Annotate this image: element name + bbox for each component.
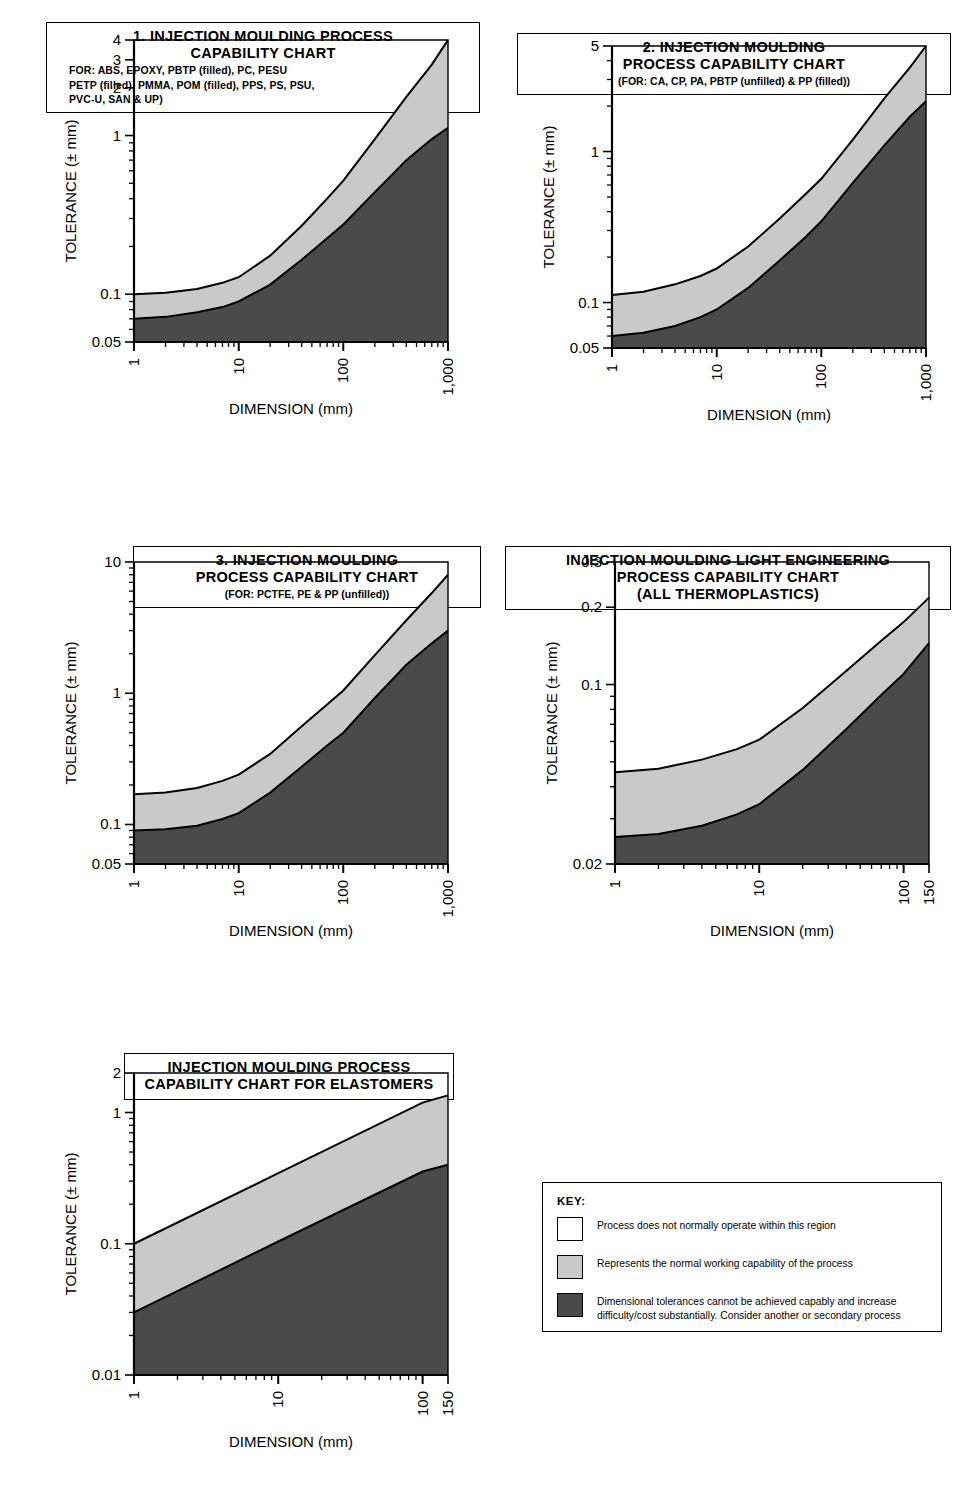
svg-text:0.1: 0.1 <box>578 294 599 311</box>
svg-text:DIMENSION (mm): DIMENSION (mm) <box>229 922 353 939</box>
svg-text:10: 10 <box>708 364 725 381</box>
svg-text:1,000: 1,000 <box>439 880 456 918</box>
svg-text:DIMENSION (mm): DIMENSION (mm) <box>707 406 831 423</box>
svg-text:2: 2 <box>113 79 121 96</box>
chart-panel-2: 2. INJECTION MOULDING PROCESS CAPABILITY… <box>517 33 951 95</box>
svg-text:0.1: 0.1 <box>581 676 602 693</box>
chart-panel-1: 1. INJECTION MOULDING PROCESS CAPABILITY… <box>46 22 480 113</box>
svg-text:4: 4 <box>113 31 121 48</box>
svg-text:TOLERANCE (± mm): TOLERANCE (± mm) <box>543 642 560 785</box>
svg-text:100: 100 <box>334 358 351 383</box>
svg-text:1,000: 1,000 <box>439 358 456 396</box>
key-item-light-gray: Represents the normal working capability… <box>557 1255 927 1279</box>
key-legend-box: KEY: Process does not normally operate w… <box>542 1182 942 1332</box>
key-swatch-white <box>557 1217 583 1241</box>
chart-4-svg: 0.020.10.20.3110100150TOLERANCE (± mm)DI… <box>497 552 962 942</box>
svg-text:0.1: 0.1 <box>100 285 121 302</box>
svg-text:1,000: 1,000 <box>917 364 934 402</box>
svg-text:2: 2 <box>113 1064 121 1081</box>
chart-3-svg: 0.050.11101101001,000TOLERANCE (± mm)DIM… <box>16 552 486 942</box>
chart-5-plot: 0.010.112110100150TOLERANCE (± mm)DIMENS… <box>16 1063 486 1453</box>
chart-1-plot: 0.050.112341101001,000TOLERANCE (± mm)DI… <box>16 30 486 420</box>
svg-text:100: 100 <box>895 880 912 905</box>
svg-text:10: 10 <box>269 1391 286 1408</box>
chart-5-svg: 0.010.112110100150TOLERANCE (± mm)DIMENS… <box>16 1063 486 1453</box>
svg-text:0.02: 0.02 <box>573 855 602 872</box>
chart-2-svg: 0.050.1151101001,000TOLERANCE (± mm)DIME… <box>494 36 962 426</box>
key-item-dark-gray: Dimensional tolerances cannot be achieve… <box>557 1293 927 1322</box>
chart-2-plot: 0.050.1151101001,000TOLERANCE (± mm)DIME… <box>494 36 962 426</box>
chart-3-plot: 0.050.11101101001,000TOLERANCE (± mm)DIM… <box>16 552 486 942</box>
svg-text:DIMENSION (mm): DIMENSION (mm) <box>229 400 353 417</box>
svg-text:1: 1 <box>606 880 623 888</box>
svg-text:0.05: 0.05 <box>570 339 599 356</box>
svg-text:0.3: 0.3 <box>581 553 602 570</box>
svg-text:0.01: 0.01 <box>92 1366 121 1383</box>
svg-text:1: 1 <box>125 880 142 888</box>
svg-text:150: 150 <box>439 1391 456 1416</box>
svg-text:DIMENSION (mm): DIMENSION (mm) <box>229 1433 353 1450</box>
svg-text:10: 10 <box>750 880 767 897</box>
svg-text:1: 1 <box>603 364 620 372</box>
svg-text:1: 1 <box>125 1391 142 1399</box>
key-label-light-gray: Represents the normal working capability… <box>597 1255 853 1271</box>
svg-text:TOLERANCE (± mm): TOLERANCE (± mm) <box>62 1153 79 1296</box>
svg-text:TOLERANCE (± mm): TOLERANCE (± mm) <box>540 126 557 269</box>
svg-text:100: 100 <box>812 364 829 389</box>
svg-text:1: 1 <box>591 143 599 160</box>
chart-panel-4: INJECTION MOULDING LIGHT ENGINEERING PRO… <box>505 546 951 610</box>
svg-text:TOLERANCE (± mm): TOLERANCE (± mm) <box>62 642 79 785</box>
svg-text:5: 5 <box>591 37 599 54</box>
svg-text:3: 3 <box>113 51 121 68</box>
svg-text:0.2: 0.2 <box>581 598 602 615</box>
svg-text:10: 10 <box>104 553 121 570</box>
svg-text:0.1: 0.1 <box>100 1235 121 1252</box>
svg-text:1: 1 <box>113 684 121 701</box>
svg-text:1: 1 <box>125 358 142 366</box>
chart-4-plot: 0.020.10.20.3110100150TOLERANCE (± mm)DI… <box>497 552 962 942</box>
svg-text:0.1: 0.1 <box>100 815 121 832</box>
svg-text:10: 10 <box>230 880 247 897</box>
key-label-dark-gray: Dimensional tolerances cannot be achieve… <box>597 1293 927 1322</box>
svg-text:DIMENSION (mm): DIMENSION (mm) <box>710 922 834 939</box>
key-item-white: Process does not normally operate within… <box>557 1217 927 1241</box>
svg-text:100: 100 <box>414 1391 431 1416</box>
key-swatch-light-gray <box>557 1255 583 1279</box>
svg-text:150: 150 <box>920 880 937 905</box>
svg-text:0.05: 0.05 <box>92 855 121 872</box>
key-label-white: Process does not normally operate within… <box>597 1217 836 1233</box>
chart-panel-5: INJECTION MOULDING PROCESS CAPABILITY CH… <box>124 1053 454 1100</box>
svg-text:10: 10 <box>230 358 247 375</box>
svg-text:100: 100 <box>334 880 351 905</box>
chart-panel-3: 3. INJECTION MOULDING PROCESS CAPABILITY… <box>133 546 481 608</box>
chart-1-svg: 0.050.112341101001,000TOLERANCE (± mm)DI… <box>16 30 486 420</box>
svg-text:1: 1 <box>113 127 121 144</box>
key-swatch-dark-gray <box>557 1293 583 1317</box>
svg-text:0.05: 0.05 <box>92 333 121 350</box>
svg-text:1: 1 <box>113 1104 121 1121</box>
key-heading: KEY: <box>557 1195 927 1207</box>
svg-text:TOLERANCE (± mm): TOLERANCE (± mm) <box>62 120 79 263</box>
